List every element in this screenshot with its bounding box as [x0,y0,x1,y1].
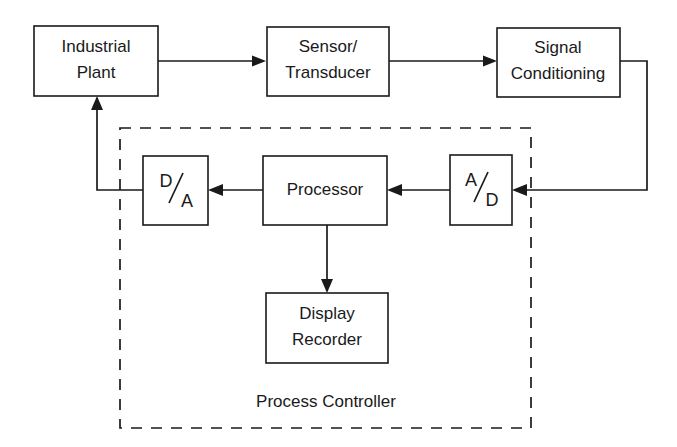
block-sensor-transducer[interactable]: Sensor/ Transducer [267,27,389,96]
connection-processor-to-da [208,184,263,196]
arrow-head-icon [483,56,497,67]
connection-ad-to-processor [387,184,450,196]
connection-processor-to-display-recorder [321,225,333,293]
block-display-recorder[interactable]: Display Recorder [266,293,388,363]
block-signal-conditioning[interactable]: Signal Conditioning [497,28,620,97]
industrial-plant-label-line1: Industrial [62,37,131,56]
arrow-head-icon [208,184,223,196]
connection-da-to-plant-feedback [91,96,143,190]
block-diagram-canvas: Industrial Plant Sensor/ Transducer Sign… [0,0,677,447]
connection-plant-to-sensor [158,56,266,67]
sensor-transducer-label-line1: Sensor/ [299,37,358,56]
arrow-head-icon [91,96,103,110]
block-processor[interactable]: Processor [263,156,387,225]
connection-sensor-to-signal-conditioning [389,56,497,67]
ad-numerator-label: A [465,170,477,190]
processor-label: Processor [287,180,364,199]
industrial-plant-label-line2: Plant [77,63,116,82]
ad-denominator-label: D [486,190,499,210]
arrow-head-icon [252,56,266,67]
signal-conditioning-label-line2: Conditioning [511,64,606,83]
block-ad-converter[interactable]: A D [450,155,512,225]
process-controller-group-label: Process Controller [256,392,396,411]
display-recorder-label-line2: Recorder [292,330,362,349]
display-recorder-label-line1: Display [299,304,355,323]
process-control-block-diagram: Industrial Plant Sensor/ Transducer Sign… [0,0,677,447]
da-denominator-label: A [181,191,193,211]
arrow-head-icon [387,184,402,196]
ad-converter-box[interactable] [450,155,512,225]
signal-conditioning-label-line1: Signal [534,38,581,57]
sensor-transducer-label-line2: Transducer [285,63,371,82]
block-industrial-plant[interactable]: Industrial Plant [34,26,158,96]
block-da-converter[interactable]: D A [143,156,208,225]
arrow-head-icon [512,184,527,196]
arrow-head-icon [321,279,333,293]
da-numerator-label: D [160,171,173,191]
